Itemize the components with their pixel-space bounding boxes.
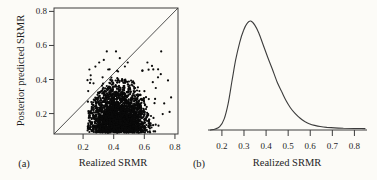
- x-tick-label: 0.6: [139, 142, 151, 152]
- figure-svg: 0.20.40.60.80.20.40.60.80.20.30.40.50.60…: [0, 0, 377, 180]
- y-tick-label: 0.4: [36, 75, 48, 85]
- panel-b-letter: (b): [187, 157, 211, 170]
- panel-b-axes: 0.20.30.40.50.60.70.8: [216, 130, 360, 151]
- panel-a-ylabel: Posterior predicted SRMR: [14, 1, 27, 141]
- x-tick-label: 0.4: [260, 141, 272, 151]
- panel-a-letter: (a): [12, 157, 36, 170]
- x-tick-label: 0.2: [216, 141, 227, 151]
- y-tick-label: 0.2: [36, 109, 47, 119]
- panel-b-xlabel: Realized SRMR: [237, 156, 337, 169]
- scatter-points: [86, 50, 172, 133]
- x-tick-label: 0.7: [327, 141, 339, 151]
- x-tick-label: 0.4: [108, 142, 120, 152]
- x-tick-label: 0.2: [77, 142, 88, 152]
- figure-container: 0.20.40.60.80.20.40.60.80.20.30.40.50.60…: [0, 0, 377, 180]
- x-tick-label: 0.3: [238, 141, 250, 151]
- x-tick-label: 0.8: [169, 142, 181, 152]
- y-tick-label: 0.6: [36, 40, 48, 50]
- density-curve: [210, 21, 365, 130]
- x-tick-label: 0.5: [283, 141, 295, 151]
- panel-b-plot: 0.20.30.40.50.60.70.8: [208, 21, 367, 151]
- panel-a-xlabel: Realized SRMR: [63, 156, 163, 169]
- x-tick-label: 0.6: [305, 141, 317, 151]
- panel-a-plot: 0.20.40.60.80.20.40.60.8: [36, 6, 181, 152]
- y-tick-label: 0.8: [36, 6, 48, 16]
- x-tick-label: 0.8: [349, 141, 361, 151]
